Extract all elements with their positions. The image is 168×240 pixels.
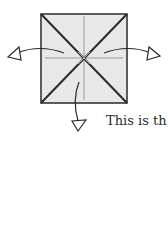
caption-text: This is th	[106, 114, 167, 127]
